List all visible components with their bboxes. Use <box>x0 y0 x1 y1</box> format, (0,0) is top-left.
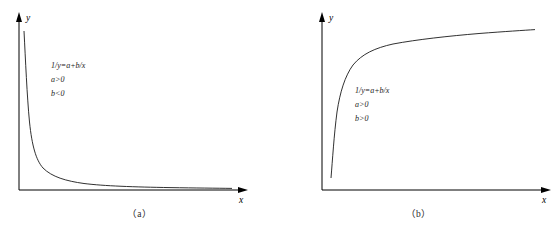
panel-b: y x 1/y=a+b/x a>0 b>0 （b） <box>279 0 558 233</box>
condition-a-label-b: a>0 <box>355 100 368 109</box>
y-axis-label-a: y <box>25 13 31 23</box>
y-axis-label-b: y <box>328 13 334 23</box>
x-axis-label-b: x <box>541 195 547 205</box>
equation-label-b: 1/y=a+b/x <box>355 86 390 95</box>
x-axis-label-a: x <box>238 195 244 205</box>
curve-a <box>24 31 232 188</box>
equation-label-a: 1/y=a+b/x <box>51 61 86 70</box>
panel-caption-a: （a） <box>0 206 279 220</box>
x-axis-arrow-b <box>541 187 551 193</box>
condition-b-label-b: b>0 <box>355 114 368 123</box>
figure-container: y x 1/y=a+b/x a>0 b<0 （a） y x 1/y=a+b/x <box>0 0 558 233</box>
y-axis-arrow-b <box>319 12 325 22</box>
panel-caption-b: （b） <box>279 206 558 220</box>
y-axis-arrow-a <box>16 12 22 22</box>
x-axis-arrow-a <box>238 187 248 193</box>
condition-a-label-a: a>0 <box>51 75 64 84</box>
panel-a: y x 1/y=a+b/x a>0 b<0 （a） <box>0 0 279 233</box>
plot-b: y x 1/y=a+b/x a>0 b>0 <box>279 0 558 233</box>
condition-b-label-a: b<0 <box>51 89 64 98</box>
plot-a: y x 1/y=a+b/x a>0 b<0 <box>0 0 279 233</box>
